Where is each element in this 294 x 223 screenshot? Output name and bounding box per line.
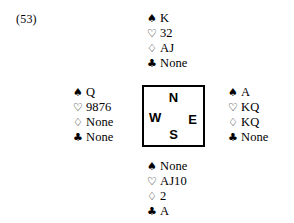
diamond-icon: ♢ [228,115,241,130]
hand-east: ♠ A ♡ KQ ♢ KQ ♣ None [228,85,268,145]
hand-west-spades-cards: Q [86,85,95,100]
heart-icon: ♡ [228,100,241,115]
club-icon: ♣ [228,130,241,145]
hand-north: ♠ K ♡ 32 ♢ AJ ♣ None [147,11,187,71]
hand-south-diamonds-row: ♢ 2 [147,189,187,204]
hand-north-diamonds-cards: AJ [160,41,174,56]
hand-north-hearts-cards: 32 [160,26,173,41]
club-icon: ♣ [147,56,160,71]
heart-icon: ♡ [147,174,160,189]
hand-east-clubs-row: ♣ None [228,130,268,145]
club-icon: ♣ [147,204,160,219]
hand-south-hearts-cards: AJ10 [160,174,187,189]
spade-icon: ♠ [228,85,241,100]
hand-west-clubs-row: ♣ None [73,130,113,145]
hand-west-hearts-row: ♡ 9876 [73,100,113,115]
compass-box: N W E S [142,85,205,147]
hand-south-clubs-cards: A [160,204,169,219]
hand-east-spades-cards: A [241,85,250,100]
compass-label-east: E [188,113,197,127]
hand-east-spades-row: ♠ A [228,85,268,100]
heart-icon: ♡ [73,100,86,115]
hand-west: ♠ Q ♡ 9876 ♢ None ♣ None [73,85,113,145]
diamond-icon: ♢ [147,189,160,204]
hand-south: ♠ None ♡ AJ10 ♢ 2 ♣ A [147,159,187,219]
hand-west-diamonds-cards: None [86,115,113,130]
hand-south-spades-row: ♠ None [147,159,187,174]
hand-west-diamonds-row: ♢ None [73,115,113,130]
bridge-deal-diagram: (53) ♠ K ♡ 32 ♢ AJ ♣ None ♠ Q ♡ 9876 ♢ [0,0,294,223]
hand-south-hearts-row: ♡ AJ10 [147,174,187,189]
hand-north-spades-cards: K [160,11,169,26]
compass-label-south: S [144,128,203,142]
hand-east-clubs-cards: None [241,130,268,145]
hand-south-diamonds-cards: 2 [160,189,166,204]
hand-west-spades-row: ♠ Q [73,85,113,100]
diamond-icon: ♢ [73,115,86,130]
heart-icon: ♡ [147,26,160,41]
compass-label-west: W [149,111,161,125]
hand-north-spades-row: ♠ K [147,11,187,26]
hand-north-hearts-row: ♡ 32 [147,26,187,41]
hand-north-diamonds-row: ♢ AJ [147,41,187,56]
hand-south-clubs-row: ♣ A [147,204,187,219]
club-icon: ♣ [73,130,86,145]
spade-icon: ♠ [73,85,86,100]
diamond-icon: ♢ [147,41,160,56]
hand-east-hearts-row: ♡ KQ [228,100,268,115]
hand-north-clubs-cards: None [160,56,187,71]
hand-west-hearts-cards: 9876 [86,100,111,115]
spade-icon: ♠ [147,11,160,26]
hand-west-clubs-cards: None [86,130,113,145]
hand-east-diamonds-row: ♢ KQ [228,115,268,130]
hand-east-diamonds-cards: KQ [241,115,259,130]
hand-east-hearts-cards: KQ [241,100,259,115]
spade-icon: ♠ [147,159,160,174]
compass-label-north: N [144,91,203,105]
hand-south-spades-cards: None [160,159,187,174]
problem-number: (53) [16,13,37,26]
hand-north-clubs-row: ♣ None [147,56,187,71]
